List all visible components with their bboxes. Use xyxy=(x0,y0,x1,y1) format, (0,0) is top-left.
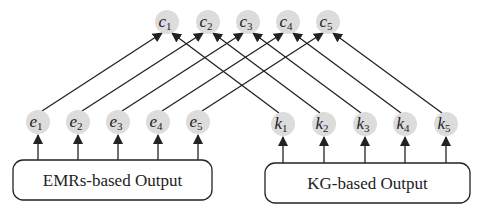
edge-k5-to-c5 xyxy=(333,33,442,113)
emrs-output-label: EMRs-based Output xyxy=(43,171,183,190)
kg-output-box: KG-based Output xyxy=(265,163,470,203)
emrs-output-box: EMRs-based Output xyxy=(13,160,212,200)
edge-k4-to-c4 xyxy=(293,33,401,113)
node-k4: k4 xyxy=(393,112,417,136)
edge-k3-to-c3 xyxy=(253,33,361,113)
node-c4: c4 xyxy=(276,10,300,34)
node-c2: c2 xyxy=(196,10,220,34)
node-k2: k2 xyxy=(312,112,336,136)
node-e5: e5 xyxy=(186,110,210,134)
edge-e2-to-c2 xyxy=(82,33,203,111)
node-e3: e3 xyxy=(106,110,130,134)
edge-e1-to-c1 xyxy=(42,33,162,111)
node-k5: k5 xyxy=(434,112,458,136)
node-k3: k3 xyxy=(353,112,377,136)
node-c1: c1 xyxy=(155,10,179,34)
node-e2: e2 xyxy=(66,110,90,134)
nodes-layer: c1c2c3c4c5e1e2e3e4e5k1k2k3k4k5 xyxy=(26,10,458,136)
node-e4: e4 xyxy=(146,110,170,134)
fusion-diagram: EMRs-based OutputKG-based Output c1c2c3c… xyxy=(0,0,488,217)
kg-output-label: KG-based Output xyxy=(307,174,428,193)
edges-layer xyxy=(42,33,442,113)
node-k1: k1 xyxy=(271,112,295,136)
output-boxes: EMRs-based OutputKG-based Output xyxy=(13,160,470,203)
node-e1: e1 xyxy=(26,110,50,134)
box-feed-arrows xyxy=(38,135,446,163)
node-c5: c5 xyxy=(316,10,340,34)
node-c3: c3 xyxy=(236,10,260,34)
